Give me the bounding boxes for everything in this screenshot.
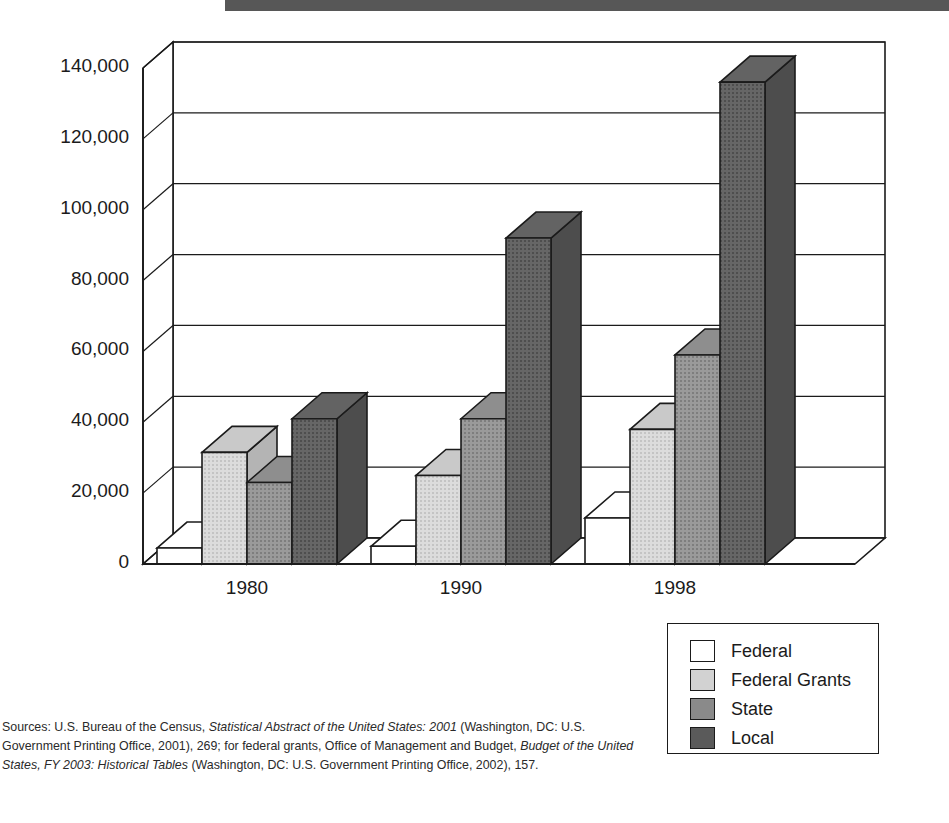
source-line3-b: (Washington, DC: U.S. Government Printin…: [188, 758, 539, 772]
legend-item: Federal Grants: [690, 667, 851, 693]
source-note: Sources: U.S. Bureau of the Census, Stat…: [2, 718, 647, 775]
legend-swatch-federal-grants: [690, 669, 715, 691]
legend-swatch-state: [690, 698, 715, 720]
x-axis-tick-label: 1980: [187, 577, 307, 599]
legend-label: Federal: [731, 641, 792, 662]
x-axis-tick-label: 1998: [615, 577, 735, 599]
y-axis-tick-label: 100,000: [0, 197, 129, 219]
legend-label: Federal Grants: [731, 670, 851, 691]
legend-item: State: [690, 696, 773, 722]
bar-1980-local: [292, 393, 367, 564]
y-axis-tick-label: 0: [0, 551, 129, 573]
source-line2-italic: Budget of: [520, 739, 573, 753]
bar-1998-local: [720, 56, 795, 564]
source-line1-b: (Washington, DC: U.S.: [457, 720, 585, 734]
page-root: 020,00040,00060,00080,000100,000120,0001…: [0, 0, 949, 823]
bar-chart-figure: 020,00040,00060,00080,000100,000120,0001…: [0, 0, 949, 823]
source-line2-a: Government Printing Office, 2001), 269; …: [2, 739, 520, 753]
legend-swatch-local: [690, 727, 715, 749]
y-axis-tick-label: 120,000: [0, 126, 129, 148]
bar-1990-local: [506, 212, 581, 564]
y-axis-tick-label: 40,000: [0, 409, 129, 431]
legend-label: Local: [731, 728, 774, 749]
legend-item: Federal: [690, 638, 792, 664]
source-line1-a: Sources: U.S. Bureau of the Census,: [2, 720, 209, 734]
y-axis-tick-label: 140,000: [0, 55, 129, 77]
y-axis-tick-label: 80,000: [0, 268, 129, 290]
chart-legend: FederalFederal GrantsStateLocal: [667, 623, 879, 754]
y-axis-tick-label: 60,000: [0, 338, 129, 360]
legend-item: Local: [690, 725, 774, 751]
x-axis-tick-label: 1990: [401, 577, 521, 599]
source-line1-italic: Statistical Abstract of the United State…: [209, 720, 457, 734]
legend-swatch-federal: [690, 640, 715, 662]
legend-label: State: [731, 699, 773, 720]
y-axis-tick-label: 20,000: [0, 480, 129, 502]
